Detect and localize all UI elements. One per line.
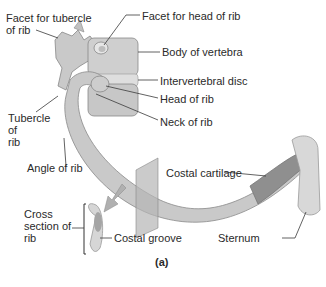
section-plane — [136, 158, 158, 238]
cross-section — [84, 204, 103, 254]
label-facet-tubercle: Facet for tubercle of rib — [6, 12, 92, 36]
label-neck-rib: Neck of rib — [160, 116, 213, 128]
label-sternum: Sternum — [218, 232, 260, 244]
label-cross-section: Cross section of rib — [24, 208, 71, 244]
label-tubercle-rib: Tubercle of rib — [8, 112, 50, 148]
label-intervertebral-disc: Intervertebral disc — [160, 75, 247, 87]
figure-caption: (a) — [155, 256, 168, 268]
label-angle-rib: Angle of rib — [27, 162, 83, 174]
label-head-rib: Head of rib — [160, 93, 214, 105]
label-costal-cartilage: Costal cartilage — [166, 167, 242, 179]
label-body-vertebra: Body of vertebra — [162, 46, 243, 58]
label-costal-groove: Costal groove — [114, 232, 182, 244]
label-facet-head: Facet for head of rib — [142, 10, 240, 22]
